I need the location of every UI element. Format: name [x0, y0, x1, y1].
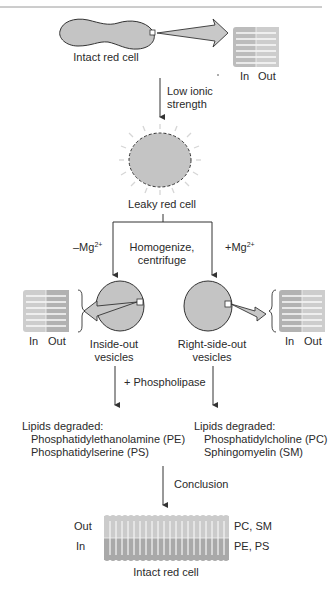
brace-right — [269, 290, 276, 332]
inside-out-label-line-2: vesicles — [94, 351, 133, 364]
magnify-arrow-right-icon — [231, 304, 266, 321]
right-bilayer-in-label: In — [285, 335, 294, 348]
stray-dot — [217, 74, 219, 76]
right-results-item: Sphingomyelin (SM) — [204, 446, 303, 459]
phospholipase-label: + Phospholipase — [124, 376, 206, 389]
step-label-line-1: Low ionic — [167, 85, 213, 98]
leaky-red-cell-shape — [119, 124, 201, 195]
final-in-lipids: PE, PS — [234, 540, 269, 553]
right-side-out-label-line-2: vesicles — [192, 351, 231, 364]
final-in-label: In — [76, 540, 85, 553]
bilayer-in-label: In — [240, 70, 249, 83]
left-results-item: Phosphatidylserine (PS) — [31, 446, 149, 459]
final-bilayer-icon — [104, 515, 229, 561]
left-bilayer-out-label: Out — [48, 335, 66, 348]
brace-left — [78, 290, 85, 332]
minus-mg-label: –Mg2+ — [73, 241, 102, 254]
bilayer-icon-left — [23, 290, 69, 332]
homogenize-label-line-2: centrifuge — [138, 254, 186, 267]
right-results-item: Phosphatidylcholine (PC) — [204, 433, 328, 446]
bilayer-icon-top — [233, 27, 279, 67]
left-results-heading: Lipids degraded: — [22, 420, 103, 433]
left-bilayer-in-label: In — [29, 335, 38, 348]
final-out-label: Out — [74, 520, 92, 533]
bilayer-icon-right — [279, 290, 325, 332]
right-results-heading: Lipids degraded: — [194, 420, 275, 433]
final-out-lipids: PC, SM — [234, 520, 272, 533]
plus-mg-label: +Mg2+ — [225, 241, 255, 254]
bilayer-out-label: Out — [258, 70, 276, 83]
intact-cell-label: Intact red cell — [73, 51, 138, 64]
inside-out-label-line-1: Inside-out — [90, 338, 138, 351]
final-caption: Intact red cell — [133, 566, 198, 579]
right-bilayer-out-label: Out — [304, 335, 322, 348]
magnify-arrow-icon — [157, 19, 228, 47]
intact-red-cell-shape — [60, 19, 155, 49]
conclusion-label: Conclusion — [174, 478, 228, 491]
right-side-out-vesicle-shape — [184, 281, 232, 331]
step-label-line-2: strength — [167, 98, 207, 111]
leaky-cell-label: Leaky red cell — [128, 198, 196, 211]
right-side-out-label-line-1: Right-side-out — [178, 338, 246, 351]
homogenize-label-line-1: Homogenize, — [130, 241, 195, 254]
left-results-item: Phosphatidylethanolamine (PE) — [31, 433, 185, 446]
